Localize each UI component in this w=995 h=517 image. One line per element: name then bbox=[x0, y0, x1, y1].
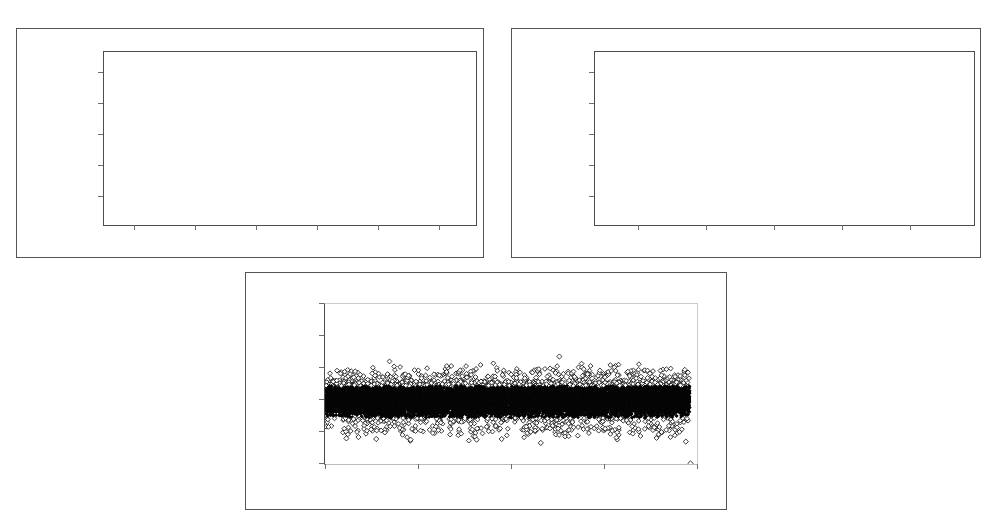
panel-a-xtick bbox=[439, 225, 440, 230]
panel-c-scatter bbox=[325, 304, 697, 464]
panel-b-xtick bbox=[910, 225, 911, 230]
panel-b-xtick bbox=[842, 225, 843, 230]
panel-b bbox=[511, 28, 981, 258]
panel-b-xtick bbox=[706, 225, 707, 230]
panel-c-xtick bbox=[697, 464, 698, 469]
panel-b-xtick bbox=[774, 225, 775, 230]
panel-c-xtick bbox=[511, 464, 512, 469]
panel-b-scatter bbox=[595, 52, 974, 225]
panel-a bbox=[16, 28, 484, 258]
panel-c bbox=[245, 272, 727, 510]
panel-b-xtick bbox=[638, 225, 639, 230]
panel-a-xtick bbox=[378, 225, 379, 230]
panel-a-xtick bbox=[134, 225, 135, 230]
panel-c-xtick bbox=[418, 464, 419, 469]
panel-c-xtick bbox=[604, 464, 605, 469]
panel-c-xtick bbox=[325, 464, 326, 469]
panel-b-plot-area bbox=[594, 51, 975, 226]
panel-a-xtick bbox=[317, 225, 318, 230]
panel-c-plot-area bbox=[324, 303, 698, 465]
panel-a-plot-area bbox=[103, 51, 477, 226]
panel-a-xtick bbox=[256, 225, 257, 230]
panel-a-xtick bbox=[195, 225, 196, 230]
figure-canvas: { "figure": { "description": "Three-pane… bbox=[0, 0, 995, 517]
panel-a-scatter bbox=[104, 52, 476, 225]
